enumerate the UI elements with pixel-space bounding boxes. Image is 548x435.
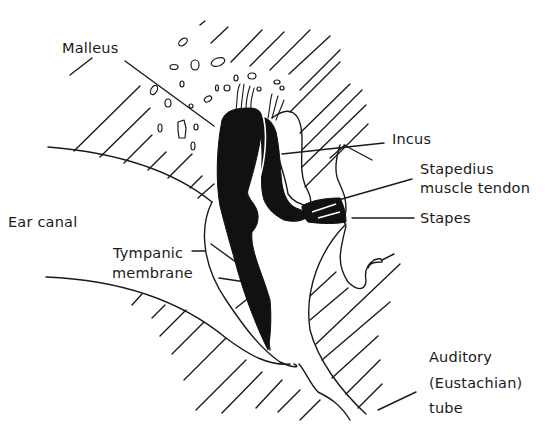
label-stapedius-line2: muscle tendon: [420, 178, 530, 198]
eustachian-tube-wall-right: [309, 224, 366, 414]
stapes-shape: [302, 198, 346, 224]
eustachian-tube-wall-left: [299, 364, 350, 420]
auditory-tube-pointer: [378, 392, 416, 410]
label-malleus: Malleus: [62, 38, 119, 58]
label-stapedius-line1: Stapedius: [420, 159, 494, 179]
incus-pointer: [282, 143, 384, 154]
promontory-outline: [340, 226, 382, 289]
label-tympanic-line1: Tympanic: [113, 243, 183, 263]
ossicles-solid: [217, 108, 346, 350]
middle-ear-diagram: Malleus Incus Stapedius muscle tendon St…: [0, 0, 548, 435]
ear-canal-upper-wall: [48, 147, 212, 202]
label-auditory-line2: (Eustachian): [429, 373, 522, 393]
label-auditory-line3: tube: [429, 398, 463, 418]
label-ear-canal: Ear canal: [8, 212, 77, 232]
right-lower-bone-hatching: [310, 254, 400, 408]
label-auditory-line1: Auditory: [429, 347, 492, 367]
label-incus: Incus: [392, 129, 431, 149]
label-tympanic-line2: membrane: [112, 263, 193, 283]
lower-bone-hatching: [132, 294, 320, 420]
malleus-pointer: [125, 61, 214, 126]
label-stapes: Stapes: [420, 208, 471, 228]
